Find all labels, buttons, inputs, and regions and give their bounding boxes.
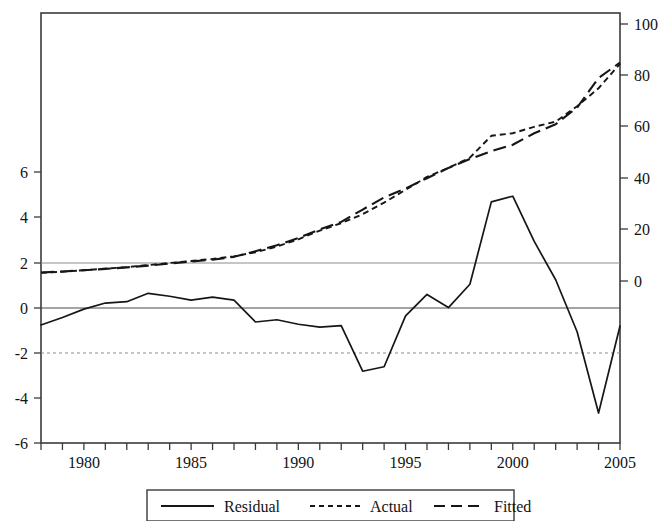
x-axis-label-1995: 1995 — [390, 454, 422, 471]
left-axis-label-neg6: -6 — [15, 435, 28, 452]
left-axis: 6 4 2 0 -2 -4 -6 — [15, 164, 41, 452]
legend-label-fitted: Fitted — [494, 498, 531, 515]
left-axis-label-6: 6 — [20, 164, 28, 181]
x-axis-label-1980: 1980 — [68, 454, 100, 471]
left-axis-label-4: 4 — [20, 209, 28, 226]
series-group — [41, 63, 620, 413]
left-axis-label-2: 2 — [20, 255, 28, 272]
x-axis-label-1990: 1990 — [282, 454, 314, 471]
chart-figure: 6 4 2 0 -2 -4 -6 100 80 60 40 20 0 19801… — [0, 0, 661, 521]
chart-legend: Residual Actual Fitted — [147, 490, 531, 521]
right-axis: 100 80 60 40 20 0 — [620, 16, 658, 290]
right-axis-label-80: 80 — [634, 67, 650, 84]
reference-lines — [41, 263, 620, 353]
right-axis-label-0: 0 — [634, 273, 642, 290]
series-line-residual — [41, 196, 620, 413]
left-axis-label-neg4: -4 — [15, 390, 28, 407]
x-axis-ticks — [41, 443, 620, 450]
x-axis-label-2005: 2005 — [604, 454, 636, 471]
right-axis-label-40: 40 — [634, 170, 650, 187]
x-axis-labels: 198019851990199520002005 — [68, 454, 636, 471]
right-axis-label-100: 100 — [634, 16, 658, 33]
legend-label-residual: Residual — [224, 498, 281, 515]
left-axis-label-neg2: -2 — [15, 345, 28, 362]
plot-frame — [41, 13, 620, 443]
left-axis-label-0: 0 — [20, 300, 28, 317]
x-axis-label-1985: 1985 — [175, 454, 207, 471]
series-line-actual — [41, 64, 620, 273]
residual-actual-fitted-chart: 6 4 2 0 -2 -4 -6 100 80 60 40 20 0 19801… — [0, 0, 661, 521]
right-axis-label-20: 20 — [634, 221, 650, 238]
legend-label-actual: Actual — [370, 498, 413, 515]
right-axis-label-60: 60 — [634, 118, 650, 135]
x-axis-label-2000: 2000 — [497, 454, 529, 471]
